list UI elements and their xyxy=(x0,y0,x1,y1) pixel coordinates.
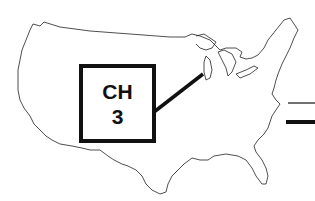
channel-label-line2: 3 xyxy=(112,104,124,129)
us-map-outline xyxy=(0,0,315,201)
us-outline-path xyxy=(18,18,298,194)
channel-label-line1: CH xyxy=(102,79,132,104)
leader-line xyxy=(154,74,203,112)
channel-label-box: CH 3 xyxy=(79,64,156,143)
great-lakes-detail xyxy=(196,34,258,80)
